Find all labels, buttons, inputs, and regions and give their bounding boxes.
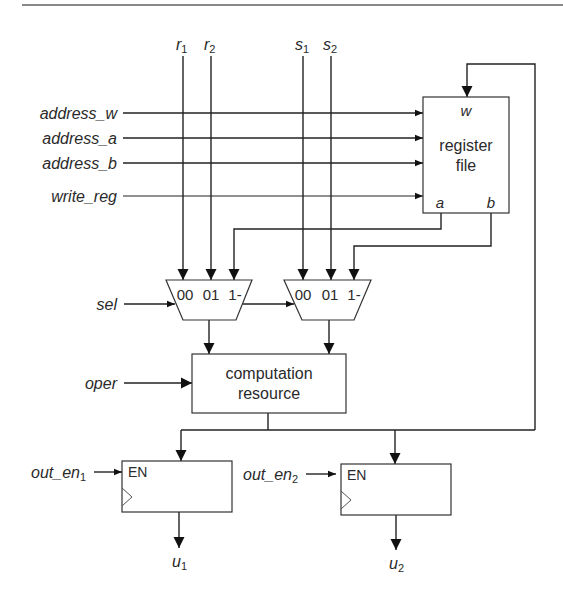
- register-file-title-1: register: [439, 137, 493, 154]
- label-r2: r2: [204, 36, 215, 55]
- register-file-title-2: file: [456, 157, 477, 174]
- port-w-label: w: [461, 102, 473, 119]
- label-u2: u2: [389, 555, 404, 574]
- reg2-en-label: EN: [347, 467, 366, 483]
- datapath-diagram: r1 r2 s1 s2 address_w address_a address_…: [0, 0, 563, 595]
- port-a-label: a: [436, 194, 444, 211]
- label-oper: oper: [85, 375, 118, 392]
- label-address-w: address_w: [40, 105, 119, 122]
- label-s2: s2: [323, 36, 337, 55]
- label-sel: sel: [97, 296, 118, 313]
- mux1-in0: 00: [177, 286, 194, 303]
- mux2-in0: 00: [295, 286, 312, 303]
- reg1-en-label: EN: [128, 464, 147, 480]
- label-u1: u1: [172, 553, 187, 572]
- label-write-reg: write_reg: [51, 188, 117, 205]
- mux1-in1: 01: [203, 286, 220, 303]
- label-out-en2: out_en2: [243, 466, 298, 485]
- computation-title-2: resource: [238, 385, 300, 402]
- computation-title-1: computation: [225, 365, 312, 382]
- label-r1: r1: [176, 36, 187, 55]
- label-s1: s1: [295, 36, 309, 55]
- mux2-in2: 1-: [347, 286, 360, 303]
- port-b-label: b: [487, 194, 495, 211]
- label-address-a: address_a: [42, 130, 117, 147]
- computation-resource-block: [192, 354, 346, 413]
- mux2-in1: 01: [322, 286, 339, 303]
- mux1-in2: 1-: [228, 286, 241, 303]
- label-out-en1: out_en1: [31, 464, 86, 483]
- label-address-b: address_b: [42, 155, 117, 172]
- wire-port-b: [354, 213, 491, 280]
